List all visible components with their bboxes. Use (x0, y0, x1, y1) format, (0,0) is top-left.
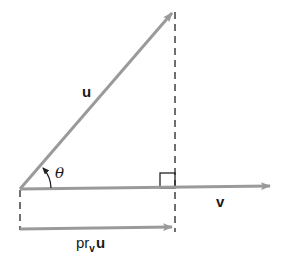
label-theta: θ (55, 164, 64, 182)
projection-diagram: u θ v prvu (0, 0, 287, 264)
theta-arc-icon (43, 168, 51, 188)
label-projection-sub: v (89, 243, 95, 254)
label-u: u (82, 83, 91, 100)
label-projection: prvu (76, 234, 105, 254)
label-v: v (216, 193, 225, 210)
vector-u-arrow (20, 13, 172, 189)
label-projection-vec: u (96, 234, 105, 251)
vector-v-arrow (20, 186, 270, 189)
projection-arrow (20, 227, 172, 229)
label-projection-prefix: pr (76, 234, 89, 251)
